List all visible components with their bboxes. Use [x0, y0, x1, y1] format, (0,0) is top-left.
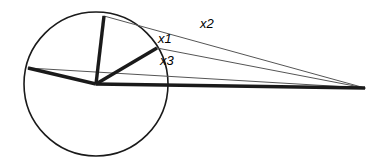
- angle-label-x1: x1: [158, 32, 172, 45]
- baseline-to-apex: [96, 84, 365, 88]
- angle-label-x3: x3: [160, 54, 174, 67]
- angle-label-x2: x2: [200, 17, 214, 30]
- bold-segments-group: [28, 16, 365, 88]
- geometry-figure: x1 x2 x3: [0, 0, 380, 162]
- radius-upper-right: [96, 48, 157, 84]
- figure-canvas: [0, 0, 380, 162]
- ray-x2: [104, 16, 365, 88]
- radius-top: [96, 16, 104, 84]
- thin-rays-group: [28, 16, 365, 88]
